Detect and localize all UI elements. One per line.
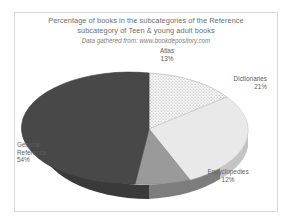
slice-label-dictionaries-name: Dictionaries: [234, 75, 267, 82]
slice-label-encyclopedies: Encyclopedies 12%: [193, 168, 263, 183]
slice-top-general-reference: [21, 72, 149, 184]
slice-label-general-reference-name-line-1: General: [17, 141, 40, 148]
slice-label-dictionaries-percent: 21%: [205, 83, 267, 91]
slice-label-encyclopedies-percent: 12%: [193, 176, 263, 184]
slice-label-general-reference: General Reference 54%: [17, 141, 75, 164]
slice-label-atlas: Atlas 13%: [147, 47, 187, 62]
slice-label-general-reference-percent: 54%: [17, 156, 75, 164]
chart-container: Percentage of books in the subcategories…: [14, 12, 278, 212]
slice-label-general-reference-name-line-2: Reference: [17, 149, 47, 156]
slice-label-atlas-name: Atlas: [160, 47, 174, 54]
slice-label-dictionaries: Dictionaries 21%: [205, 75, 267, 90]
slice-label-encyclopedies-name: Encyclopedies: [207, 168, 248, 175]
pie-plot-area: Atlas 13% Dictionaries 21% Encyclopedies…: [15, 13, 279, 213]
slice-label-atlas-percent: 13%: [147, 55, 187, 63]
